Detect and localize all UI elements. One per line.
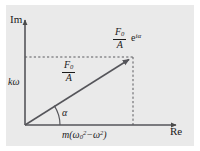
- imaginary-axis-label: Im: [10, 14, 22, 25]
- angle-arc: [54, 106, 60, 125]
- magnitude-numerator-subscript: 0: [70, 63, 73, 70]
- angle-label: α: [62, 108, 67, 118]
- amplitude-phasor-line: [25, 60, 129, 126]
- exponent-alpha: α: [137, 32, 141, 40]
- exponential-label: eiα: [131, 33, 141, 43]
- imaginary-component-text: kω: [8, 76, 20, 87]
- real-component-omega: ω: [93, 129, 100, 140]
- magnitude-denominator: A: [62, 73, 75, 83]
- magnitude-numerator: F0: [62, 60, 75, 71]
- imaginary-component-label: kω: [8, 77, 20, 87]
- magnitude-fraction: F0 A: [62, 60, 75, 83]
- real-component-omega-0: ω: [73, 129, 80, 140]
- real-component-label: m(ω02−ω2): [62, 130, 107, 141]
- tip-denominator: A: [113, 40, 126, 50]
- phasor-diagram-figure: Im Re kω m(ω02−ω2) α F0 A F0 A eiα: [0, 0, 200, 151]
- tip-numerator: F0: [113, 27, 126, 38]
- exponential-exponent: iα: [135, 32, 141, 40]
- real-axis-label: Re: [170, 126, 182, 137]
- real-component-minus: −: [86, 129, 93, 140]
- tip-fraction: F0 A: [113, 27, 126, 50]
- tip-numerator-subscript: 0: [121, 30, 124, 37]
- real-component-close: ): [103, 129, 106, 140]
